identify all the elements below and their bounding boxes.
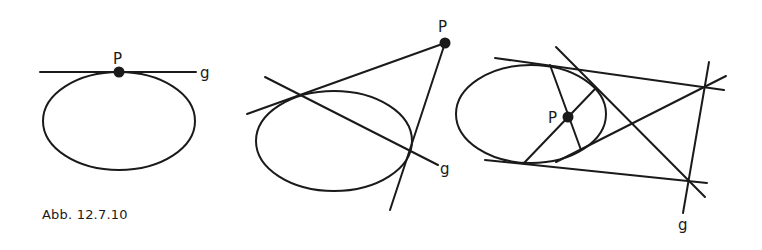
line-label: g [440, 160, 450, 178]
line-label: g [200, 64, 210, 82]
figure-internal-point: P g [456, 47, 726, 234]
polar-line-g [265, 77, 438, 165]
chord-line [524, 89, 595, 163]
figure-external-point: P g [247, 18, 451, 210]
point-label: P [548, 109, 557, 127]
point-p [440, 38, 451, 49]
figure-tangent: P g [40, 50, 210, 170]
ellipse [256, 91, 412, 191]
figure-caption: Abb. 12.7.10 [42, 207, 128, 222]
point-label: P [113, 50, 122, 68]
tangent-line [247, 43, 445, 114]
tangent-line-bottom [485, 160, 707, 183]
point-p [563, 112, 574, 123]
tangent-line [390, 43, 445, 210]
point-label: P [438, 18, 447, 36]
line-label: g [678, 216, 688, 234]
point-p [114, 67, 125, 78]
tangent-line-top [495, 58, 724, 90]
ellipse [43, 72, 195, 170]
